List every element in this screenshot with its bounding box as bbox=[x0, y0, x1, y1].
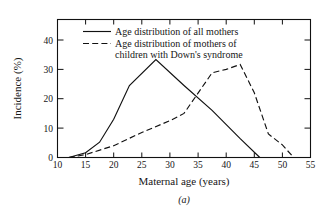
x-tick-label: 20 bbox=[109, 160, 119, 170]
panel-caption: (a) bbox=[178, 194, 190, 206]
y-axis-ticks-left bbox=[58, 40, 64, 158]
y-tick-label: 30 bbox=[44, 65, 54, 75]
x-tick-label: 35 bbox=[193, 160, 203, 170]
y-tick-label: 0 bbox=[48, 153, 53, 163]
legend-label-all-mothers: Age distribution of all mothers bbox=[115, 26, 238, 37]
maternal-age-incidence-chart: 10 15 20 25 30 35 40 45 50 55 0 10 20 30… bbox=[0, 0, 328, 210]
x-tick-label: 25 bbox=[137, 160, 147, 170]
series-downs-syndrome-mothers bbox=[69, 64, 294, 157]
x-tick-label: 50 bbox=[278, 160, 288, 170]
y-axis-title: Incidence (%) bbox=[11, 57, 24, 119]
series-all-mothers bbox=[69, 60, 260, 158]
y-axis-tick-labels: 0 10 20 30 40 bbox=[44, 36, 54, 164]
y-tick-label: 10 bbox=[44, 124, 54, 134]
x-axis-ticks-bottom bbox=[58, 153, 311, 158]
x-axis-tick-labels: 10 15 20 25 30 35 40 45 50 55 bbox=[53, 160, 316, 170]
x-tick-label: 15 bbox=[81, 160, 91, 170]
x-tick-label: 10 bbox=[53, 160, 63, 170]
legend-label-downs-line2: children with Down's syndrome bbox=[115, 49, 243, 60]
y-tick-label: 20 bbox=[44, 94, 54, 104]
x-axis-title: Maternal age (years) bbox=[138, 175, 229, 188]
figure-panel: 10 15 20 25 30 35 40 45 50 55 0 10 20 30… bbox=[0, 0, 328, 210]
x-tick-label: 55 bbox=[306, 160, 316, 170]
x-tick-label: 30 bbox=[165, 160, 175, 170]
x-tick-label: 45 bbox=[250, 160, 260, 170]
y-axis-ticks-right bbox=[305, 40, 311, 128]
x-axis-ticks-top bbox=[86, 20, 283, 25]
chart-legend: Age distribution of all mothers Age dist… bbox=[83, 26, 243, 60]
x-tick-label: 40 bbox=[221, 160, 231, 170]
y-tick-label: 40 bbox=[44, 36, 54, 46]
legend-label-downs-line1: Age distribution of mothers of bbox=[115, 38, 237, 49]
